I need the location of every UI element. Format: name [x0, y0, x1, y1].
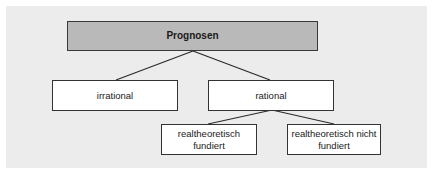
node-label: Prognosen: [166, 30, 218, 42]
node-label-line1: realtheoretisch nicht: [291, 128, 376, 140]
node-label-line1: realtheoretisch: [178, 128, 240, 140]
node-label-line2: fundiert: [318, 140, 350, 152]
node-realtheoretisch-fundiert: realtheoretisch fundiert: [161, 124, 257, 155]
node-prognosen: Prognosen: [67, 21, 318, 51]
edge-rational-rt-fundiert: [208, 110, 272, 124]
node-label: irrational: [97, 90, 133, 102]
node-rational: rational: [208, 80, 334, 111]
edge-rational-rt-nicht-fundiert: [272, 110, 334, 124]
node-realtheoretisch-nicht-fundiert: realtheoretisch nicht fundiert: [287, 124, 381, 155]
node-label-line2: fundiert: [193, 140, 225, 152]
edge-prognosen-irrational: [116, 51, 193, 80]
edge-prognosen-rational: [193, 51, 270, 80]
node-label: rational: [255, 90, 286, 102]
node-irrational: irrational: [52, 80, 178, 111]
